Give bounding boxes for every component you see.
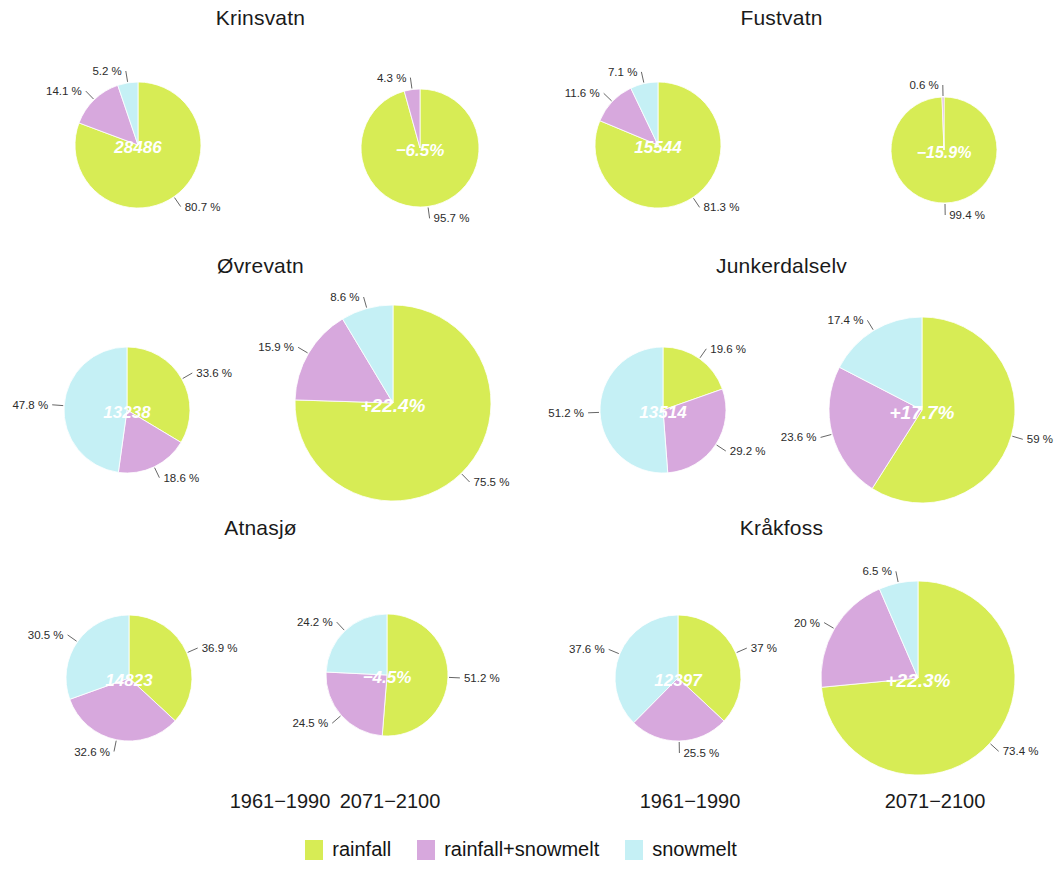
slice-percent-label: 32.6 % — [74, 746, 110, 758]
label-leader-line — [337, 622, 345, 630]
slice-percent-label: 24.2 % — [297, 616, 333, 628]
station-title: Atnasjø — [0, 516, 521, 540]
pie-chart: 59 %23.6 %17.4 %+17.7% — [734, 222, 1058, 598]
pie-center-label: +22.4% — [361, 395, 426, 416]
station-title: Kråkfoss — [521, 516, 1042, 540]
slice-percent-label: 18.6 % — [163, 472, 199, 484]
label-leader-line — [364, 297, 367, 308]
label-leader-line — [114, 741, 116, 752]
pie-slice — [595, 82, 721, 208]
pie-slice — [829, 367, 922, 488]
slice-percent-label: 17.4 % — [828, 314, 864, 326]
station-title: Krinsvatn — [0, 6, 521, 30]
legend-swatch-snowmelt-icon — [625, 840, 643, 860]
pie-chart: 80.7 %14.1 %5.2 %28486 — [0, 0, 296, 303]
pie-center-label: +17.7% — [890, 402, 955, 423]
pie-center-label: −4.5% — [363, 668, 412, 687]
label-leader-line — [737, 648, 747, 652]
slice-percent-label: 7.1 % — [608, 66, 637, 78]
slice-percent-label: 36.9 % — [202, 642, 238, 654]
pie-slice — [326, 614, 387, 675]
slice-percent-label: 4.3 % — [377, 72, 406, 84]
pie-chart: 33.6 %18.6 %47.8 %13238 — [0, 252, 285, 568]
pie-slice — [64, 347, 127, 472]
slice-percent-label: 6.5 % — [862, 565, 891, 577]
slice-percent-label: 5.2 % — [92, 65, 121, 77]
pie-slice — [404, 89, 420, 148]
slice-percent-label: 51.2 % — [464, 672, 500, 684]
pie-center-label: 15544 — [634, 138, 682, 157]
pie-center-label: 13238 — [103, 403, 151, 422]
label-leader-line — [52, 405, 63, 406]
station-title: Øvrevatn — [0, 254, 521, 278]
pie-slice — [663, 389, 726, 473]
pie-slice — [600, 347, 668, 473]
pie-chart: 19.6 %29.2 %51.2 %13514 — [505, 252, 821, 568]
label-leader-line — [183, 373, 193, 379]
legend-label: snowmelt — [652, 838, 736, 861]
pie-chart: 81.3 %11.6 %7.1 %15544 — [500, 0, 816, 303]
period-column-label: 2071−2100 — [845, 790, 1025, 813]
label-leader-line — [449, 677, 460, 678]
pie-slice — [118, 82, 138, 145]
pie-slice — [839, 317, 922, 410]
pie-slice — [872, 317, 1015, 503]
slice-percent-label: 0.6 % — [909, 79, 938, 91]
chart-legend: rainfallrainfall+snowmeltsnowmelt — [0, 838, 1042, 861]
label-leader-line — [821, 435, 832, 438]
pie-slice — [942, 97, 944, 150]
pie-slice — [129, 615, 192, 721]
station-title: Junkerdalselv — [521, 254, 1042, 278]
slice-percent-label: 80.7 % — [185, 201, 221, 213]
label-leader-line — [694, 198, 700, 207]
pie-slice — [343, 305, 393, 403]
period-column-label: 2071−2100 — [300, 790, 480, 813]
label-leader-line — [86, 91, 94, 99]
pie-slice — [879, 581, 918, 678]
pie-chart: 99.4 %0.6 %−15.9% — [796, 2, 1058, 298]
slice-percent-label: 30.5 % — [28, 629, 64, 641]
label-leader-line — [332, 716, 340, 723]
slice-percent-label: 73.4 % — [1003, 745, 1039, 757]
period-column-label: 1961−1990 — [600, 790, 780, 813]
pie-slice — [75, 82, 201, 208]
label-leader-line — [604, 93, 612, 101]
slice-percent-label: 37.6 % — [569, 643, 605, 655]
label-leader-line — [1012, 436, 1023, 439]
label-leader-line — [68, 635, 77, 641]
pie-center-label: −6.5% — [396, 141, 445, 160]
label-leader-line — [991, 744, 999, 751]
slice-percent-label: 95.7 % — [434, 212, 470, 224]
label-leader-line — [717, 445, 726, 451]
slice-percent-label: 47.8 % — [12, 399, 48, 411]
slice-percent-label: 59 % — [1027, 433, 1053, 445]
pie-chart: 95.7 %4.3 %−6.5% — [266, 0, 574, 302]
slice-percent-label: 33.6 % — [196, 367, 232, 379]
pie-slice — [361, 89, 479, 207]
legend-swatch-rainfall-icon — [305, 840, 323, 860]
pie-slice — [663, 347, 722, 410]
pie-slice — [634, 678, 724, 741]
pie-slice — [821, 589, 918, 687]
label-leader-line — [462, 474, 470, 482]
label-leader-line — [175, 198, 181, 207]
slice-percent-label: 75.5 % — [474, 476, 510, 488]
label-leader-line — [896, 571, 898, 582]
slice-percent-label: 8.6 % — [330, 291, 359, 303]
label-leader-line — [641, 72, 643, 83]
label-leader-line — [410, 78, 412, 89]
label-leader-line — [867, 320, 873, 329]
pie-slice — [118, 410, 181, 473]
pie-center-label: 28486 — [113, 138, 162, 157]
slice-percent-label: 24.5 % — [292, 717, 328, 729]
pie-slice — [821, 581, 1015, 775]
pie-slice — [891, 97, 997, 203]
pie-slice — [66, 615, 129, 699]
slice-percent-label: 99.4 % — [949, 209, 985, 221]
slice-percent-label: 14.1 % — [46, 85, 82, 97]
